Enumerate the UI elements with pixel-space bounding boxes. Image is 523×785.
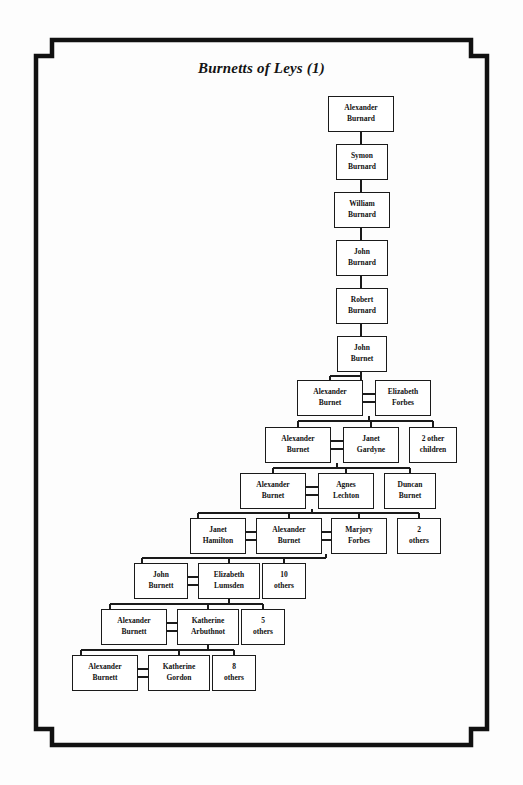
person-node-line1: Elizabeth: [388, 387, 418, 398]
person-node-line1: Katherine: [163, 662, 196, 673]
person-node-line2: others: [253, 627, 273, 638]
person-node[interactable]: AlexanderBurnett: [101, 609, 167, 645]
person-node-line2: Burnett: [149, 581, 174, 592]
family-tree-page: Burnetts of Leys (1): [0, 0, 523, 785]
person-node-line2: Lechton: [333, 491, 359, 502]
person-node-line1: Elizabeth: [214, 570, 244, 581]
person-node-line2: Burnett: [93, 673, 118, 684]
person-node[interactable]: AlexanderBurnett: [72, 655, 138, 691]
person-node-line2: Lumsden: [214, 581, 244, 592]
person-node[interactable]: AlexanderBurnard: [328, 96, 394, 132]
person-node[interactable]: DuncanBurnet: [384, 473, 436, 509]
person-node-line1: Symon: [351, 151, 373, 162]
person-node-line2: Gordon: [166, 673, 191, 684]
person-node-line2: Burnet: [351, 354, 374, 365]
person-node-line1: Alexander: [272, 525, 305, 536]
person-node-line2: Burnard: [348, 162, 376, 173]
person-node[interactable]: WilliamBurnard: [334, 192, 390, 228]
person-node-line1: Agnes: [336, 480, 356, 491]
person-node-line2: Burnet: [287, 445, 310, 456]
person-node[interactable]: 8others: [212, 655, 256, 691]
person-node[interactable]: ElizabethLumsden: [198, 563, 260, 599]
person-node-line1: Robert: [351, 295, 374, 306]
person-node-line1: Alexander: [88, 662, 121, 673]
person-node[interactable]: RobertBurnard: [336, 288, 388, 324]
person-node-line1: John: [354, 343, 370, 354]
person-node-line2: others: [274, 581, 294, 592]
person-node[interactable]: KatherineGordon: [148, 655, 210, 691]
person-node-line2: Forbes: [392, 398, 414, 409]
person-node-line1: John: [153, 570, 169, 581]
person-node-line2: Burnard: [347, 114, 375, 125]
person-node-line2: Burnard: [348, 306, 376, 317]
person-node[interactable]: JohnBurnett: [134, 563, 188, 599]
person-node-line1: 5: [261, 616, 265, 627]
person-node-line2: Burnard: [348, 258, 376, 269]
person-node-line1: 10: [280, 570, 288, 581]
person-node[interactable]: 5others: [241, 609, 285, 645]
person-node-line1: Marjory: [345, 525, 372, 536]
person-node-line2: Burnet: [262, 491, 285, 502]
person-node-line2: Forbes: [348, 536, 370, 547]
person-node[interactable]: AgnesLechton: [318, 473, 374, 509]
person-node[interactable]: KatherineArbuthnot: [177, 609, 239, 645]
person-node[interactable]: AlexanderBurnet: [297, 380, 363, 416]
person-node[interactable]: SymonBurnard: [336, 144, 388, 180]
person-node-line2: Burnard: [348, 210, 376, 221]
person-node-line1: Alexander: [117, 616, 150, 627]
person-node[interactable]: JanetHamilton: [190, 518, 246, 554]
person-node[interactable]: AlexanderBurnet: [240, 473, 306, 509]
person-node[interactable]: JohnBurnet: [337, 336, 387, 372]
person-node[interactable]: 2 otherchildren: [409, 427, 457, 463]
person-node-line2: others: [409, 536, 429, 547]
person-node-line1: 2: [417, 525, 421, 536]
person-node-line1: 2 other: [422, 434, 445, 445]
person-node-line2: children: [420, 445, 447, 456]
person-node-line2: Arbuthnot: [191, 627, 225, 638]
person-node-line1: 8: [232, 662, 236, 673]
person-node-line1: Alexander: [281, 434, 314, 445]
person-node[interactable]: 2others: [397, 518, 441, 554]
person-node[interactable]: MarjoryForbes: [331, 518, 387, 554]
person-node-line1: Duncan: [397, 480, 422, 491]
person-node[interactable]: AlexanderBurnet: [256, 518, 322, 554]
person-node-line2: Gardyne: [357, 445, 385, 456]
person-node-line1: Janet: [209, 525, 227, 536]
person-node-line1: Katherine: [192, 616, 225, 627]
person-node-line1: Alexander: [256, 480, 289, 491]
person-node[interactable]: JohnBurnard: [336, 240, 388, 276]
person-node-line2: others: [224, 673, 244, 684]
person-node-line1: John: [354, 247, 370, 258]
person-node[interactable]: ElizabethForbes: [375, 380, 431, 416]
person-node[interactable]: 10others: [262, 563, 306, 599]
person-node-line1: Alexander: [344, 103, 377, 114]
person-node-line2: Burnet: [399, 491, 422, 502]
person-node-line1: William: [349, 199, 375, 210]
person-node[interactable]: AlexanderBurnet: [265, 427, 331, 463]
person-node-line1: Janet: [362, 434, 380, 445]
person-node-line2: Burnett: [122, 627, 147, 638]
person-node-line2: Burnet: [278, 536, 301, 547]
person-node[interactable]: JanetGardyne: [343, 427, 399, 463]
person-node-line2: Burnet: [319, 398, 342, 409]
person-node-line2: Hamilton: [203, 536, 233, 547]
person-node-line1: Alexander: [313, 387, 346, 398]
